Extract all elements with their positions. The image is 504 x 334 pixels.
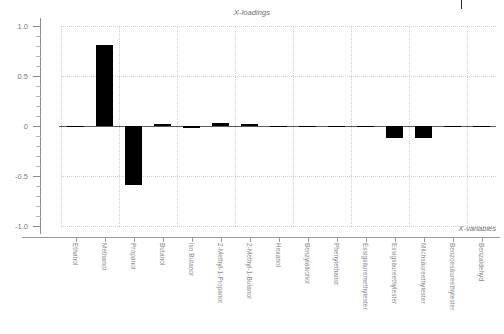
- y-tick-minor: [36, 136, 41, 137]
- x-tick: [250, 238, 251, 242]
- bar: [96, 45, 114, 126]
- x-tick: [279, 238, 280, 242]
- y-tick-major: [33, 76, 41, 77]
- bar: [386, 126, 404, 138]
- y-tick-minor: [36, 96, 41, 97]
- y-tick-minor: [36, 206, 41, 207]
- x-tick-label: Methanol: [101, 243, 108, 270]
- y-tick-minor: [36, 156, 41, 157]
- x-tick: [308, 238, 309, 242]
- x-tick-label: Hexanol: [275, 243, 282, 267]
- x-tick-label: 2-Methyl-1-Propanol: [217, 243, 224, 303]
- x-tick: [192, 238, 193, 242]
- y-tick-major: [33, 26, 41, 27]
- x-tick-label: Milchsäureethylester: [420, 243, 427, 304]
- y-tick-minor: [36, 106, 41, 107]
- y-tick-minor: [36, 216, 41, 217]
- x-tick: [134, 238, 135, 242]
- y-tick-minor: [36, 86, 41, 87]
- x-tick-label: Benzylalkohol: [304, 243, 311, 284]
- y-tick-major: [33, 126, 41, 127]
- x-tick: [482, 238, 483, 242]
- x-tick: [337, 238, 338, 242]
- bar: [299, 126, 317, 127]
- x-tick: [395, 238, 396, 242]
- x-tick-label: Phenylethanol: [333, 243, 340, 285]
- x-tick: [424, 238, 425, 242]
- y-tick-label: 0: [0, 122, 28, 131]
- bar: [241, 124, 259, 127]
- bar: [357, 126, 375, 127]
- bar: [125, 126, 143, 185]
- x-axis-line: [22, 237, 500, 238]
- x-tick-label: Essigsäureethylester: [391, 243, 398, 304]
- y-tick-major: [33, 176, 41, 177]
- x-tick: [453, 238, 454, 242]
- x-tick: [163, 238, 164, 242]
- grid-line-horizontal: [61, 26, 496, 27]
- bar: [415, 126, 433, 138]
- y-tick-minor: [36, 186, 41, 187]
- bar: [270, 126, 288, 127]
- grid-line-horizontal: [61, 76, 496, 77]
- chart-title: X-loadings: [0, 8, 504, 17]
- y-tick-minor: [36, 56, 41, 57]
- bar: [444, 126, 462, 127]
- x-tick-label: iso Butanol: [188, 243, 195, 276]
- grid-line-horizontal: [61, 226, 496, 227]
- y-tick-label: 1.0: [0, 22, 28, 31]
- x-tick: [221, 238, 222, 242]
- x-tick: [76, 238, 77, 242]
- bar: [183, 126, 201, 128]
- x-tick-label: Essigsäuremethylester: [362, 243, 369, 310]
- bar: [67, 126, 85, 127]
- x-tick-label: Ethanol: [72, 243, 79, 265]
- y-tick-label: -1.0: [0, 222, 28, 231]
- y-tick-minor: [36, 196, 41, 197]
- y-tick-label: 0.5: [0, 72, 28, 81]
- bar: [154, 124, 172, 126]
- x-loadings-chart: X-loadings X-variables 1.00.50-0.5-1.0 E…: [0, 0, 504, 334]
- x-tick-label: 2-Methyl-1-Butanol: [246, 243, 253, 299]
- plot-area: [61, 26, 496, 226]
- x-tick-label: Propanol: [130, 243, 137, 269]
- y-tick-minor: [36, 46, 41, 47]
- bar: [473, 126, 491, 127]
- bar: [212, 123, 230, 127]
- bar: [328, 126, 346, 127]
- x-tick-label: Butanol: [159, 243, 166, 265]
- x-tick-label: Benzaldehyd: [478, 243, 485, 281]
- y-tick-minor: [36, 116, 41, 117]
- y-tick-minor: [36, 36, 41, 37]
- x-tick: [366, 238, 367, 242]
- x-tick-label: Benzoesäureethylester: [449, 243, 456, 310]
- y-tick-minor: [36, 146, 41, 147]
- y-tick-label: -0.5: [0, 172, 28, 181]
- y-tick-minor: [36, 66, 41, 67]
- y-tick-minor: [36, 166, 41, 167]
- y-tick-major: [33, 226, 41, 227]
- x-tick: [105, 238, 106, 242]
